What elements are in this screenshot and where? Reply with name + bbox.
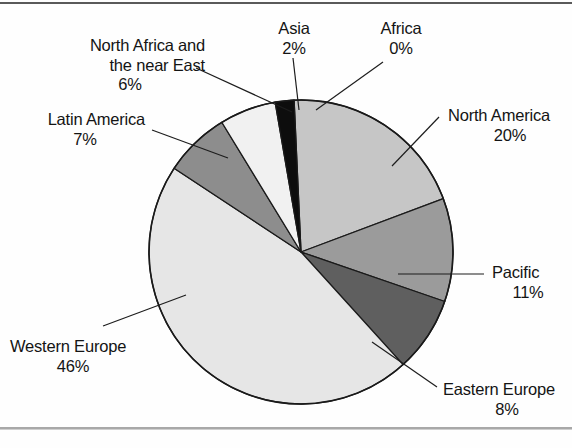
slice-label-africa-line1: Africa (381, 19, 422, 37)
slice-value-africa: 0% (355, 39, 447, 59)
slice-label-north-africa-line2: the near East (109, 56, 205, 74)
slice-label-asia-line1: Asia (278, 19, 309, 37)
slice-label-western-europe: Western Europe 46% (10, 337, 136, 376)
slice-value-latin-america: 7% (25, 130, 145, 150)
leader-north-africa (196, 68, 292, 112)
slice-label-latin-america-line1: Latin America (48, 110, 145, 128)
slice-label-africa: Africa 0% (355, 19, 447, 58)
slice-value-pacific: 11% (492, 283, 564, 303)
slice-label-north-africa-line1: North Africa and (90, 36, 205, 54)
slice-value-western-europe: 46% (10, 357, 136, 377)
slice-value-eastern-europe: 8% (443, 400, 571, 420)
slice-label-north-america-line1: North America (448, 106, 550, 124)
slice-label-pacific-line1: Pacific (492, 263, 539, 281)
chart-figure: North Africa and the near East 6% Latin … (0, 0, 572, 448)
slice-label-eastern-europe: Eastern Europe 8% (443, 380, 571, 419)
slice-label-eastern-europe-line1: Eastern Europe (443, 380, 555, 398)
slice-label-asia: Asia 2% (248, 19, 340, 58)
slice-label-western-europe-line1: Western Europe (10, 337, 126, 355)
slice-label-north-america: North America 20% (448, 106, 572, 145)
leader-africa (316, 62, 383, 110)
slice-value-asia: 2% (248, 39, 340, 59)
slice-value-north-africa: 6% (55, 75, 205, 95)
slice-label-pacific: Pacific 11% (492, 263, 564, 302)
slice-label-latin-america: Latin America 7% (25, 110, 145, 149)
slice-label-north-africa: North Africa and the near East 6% (55, 36, 205, 95)
slice-value-north-america: 20% (448, 126, 572, 146)
